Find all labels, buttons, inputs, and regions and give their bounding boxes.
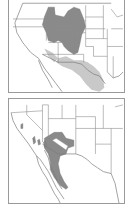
baja-coast [38,60,52,88]
map-panel-bottom: Range map - southwestern USA and northwe… [8,98,125,204]
map-top-svg [9,0,124,92]
map-bottom-svg [9,99,124,203]
range-light-region-west [44,48,58,62]
gulf-coast [107,72,123,78]
range-patch-1 [33,136,36,144]
map-panel-top: Range map - western USA and northern Mex… [8,0,125,93]
range-patch-2 [38,139,41,145]
gulf-coast [111,174,119,203]
range-light-region [56,56,104,91]
range-patch-4 [21,124,23,129]
